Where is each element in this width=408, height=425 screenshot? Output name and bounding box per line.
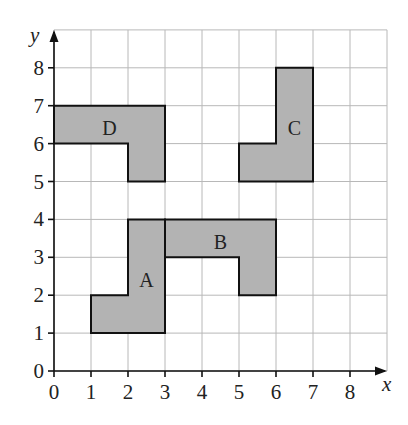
shape-label: C <box>288 117 301 139</box>
shape-d: D <box>54 106 165 182</box>
x-tick-label: 1 <box>86 380 97 404</box>
y-tick-label: 7 <box>34 94 45 118</box>
x-tick-label: 5 <box>234 380 245 404</box>
y-tick-label: 3 <box>34 245 45 269</box>
shape-c: C <box>239 68 313 182</box>
x-tick-label: 4 <box>197 380 208 404</box>
shape-label: B <box>214 231 227 253</box>
shape-label: A <box>139 269 154 291</box>
x-tick-label: 6 <box>271 380 282 404</box>
y-tick-label: 6 <box>34 132 45 156</box>
x-tick-label: 3 <box>160 380 171 404</box>
x-tick-label: 7 <box>308 380 319 404</box>
y-tick-label: 8 <box>34 56 45 80</box>
y-tick-label: 1 <box>34 321 45 345</box>
y-tick-label: 2 <box>34 283 45 307</box>
x-axis-label: x <box>381 372 392 396</box>
y-tick-label: 4 <box>34 207 45 231</box>
x-tick-label: 2 <box>123 380 134 404</box>
shape-a: A <box>91 219 165 333</box>
shape-label: D <box>102 117 116 139</box>
coordinate-grid-diagram: ABCD012345678012345678xy <box>0 0 408 425</box>
y-tick-label: 0 <box>34 359 45 383</box>
x-tick-label: 0 <box>49 380 60 404</box>
y-tick-label: 5 <box>34 170 45 194</box>
y-axis-arrow-icon <box>50 30 59 42</box>
x-tick-label: 8 <box>345 380 356 404</box>
y-axis-label: y <box>28 23 40 47</box>
shape-b: B <box>165 219 276 295</box>
axes: 012345678012345678xy <box>28 23 392 404</box>
